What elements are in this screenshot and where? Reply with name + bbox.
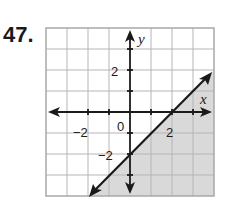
x-tick-label-2: 2 xyxy=(166,125,173,140)
x-tick-label-neg2: −2 xyxy=(73,125,88,140)
y-axis-label: y xyxy=(136,31,145,47)
x-axis-label: x xyxy=(199,91,207,107)
inequality-graph: y x 2 −2 0 2 −2 xyxy=(0,0,226,206)
y-tick-label-2: 2 xyxy=(111,64,118,79)
origin-label: 0 xyxy=(117,119,124,134)
y-tick-label-neg2: −2 xyxy=(98,148,113,163)
